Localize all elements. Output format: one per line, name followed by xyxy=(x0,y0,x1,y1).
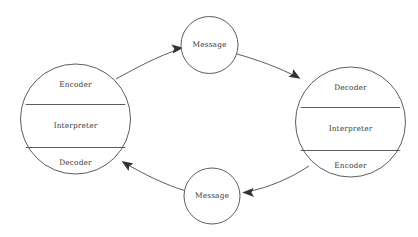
receiver-segment-label-encoder: Encoder xyxy=(334,161,367,170)
message-top-node[interactable]: Message xyxy=(181,17,238,74)
connector-message-bottom-to-sender xyxy=(125,163,186,191)
receiver-segment-label-decoder: Decoder xyxy=(334,83,367,92)
sender-segment-label-encoder: Encoder xyxy=(59,80,92,89)
connector-message-top-to-receiver xyxy=(237,54,297,77)
receiver-segment-label-interpreter: Interpreter xyxy=(329,124,373,133)
communication-cycle-diagram: Encoder Interpreter Decoder Decoder Inte… xyxy=(0,0,418,237)
arrowhead-message-bottom-to-sender xyxy=(122,161,134,171)
connector-sender-to-message-top xyxy=(116,49,180,79)
sender-segment-label-decoder: Decoder xyxy=(59,158,92,167)
receiver-node[interactable]: Decoder Interpreter Encoder xyxy=(296,67,406,177)
diagram-canvas: Encoder Interpreter Decoder Decoder Inte… xyxy=(0,0,418,237)
sender-node[interactable]: Encoder Interpreter Decoder xyxy=(21,64,131,174)
arrowhead-receiver-to-message-bottom xyxy=(242,188,254,197)
message-bottom-node[interactable]: Message xyxy=(184,168,240,224)
sender-segment-label-interpreter: Interpreter xyxy=(54,121,98,130)
message-top-label: Message xyxy=(192,40,226,49)
message-bottom-label: Message xyxy=(195,191,229,200)
connector-receiver-to-message-bottom xyxy=(246,166,309,192)
